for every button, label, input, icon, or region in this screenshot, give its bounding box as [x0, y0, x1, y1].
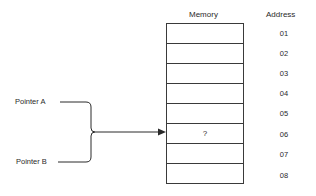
pointer-connector-arrow: [0, 0, 316, 196]
arrowhead-icon: [158, 129, 166, 136]
